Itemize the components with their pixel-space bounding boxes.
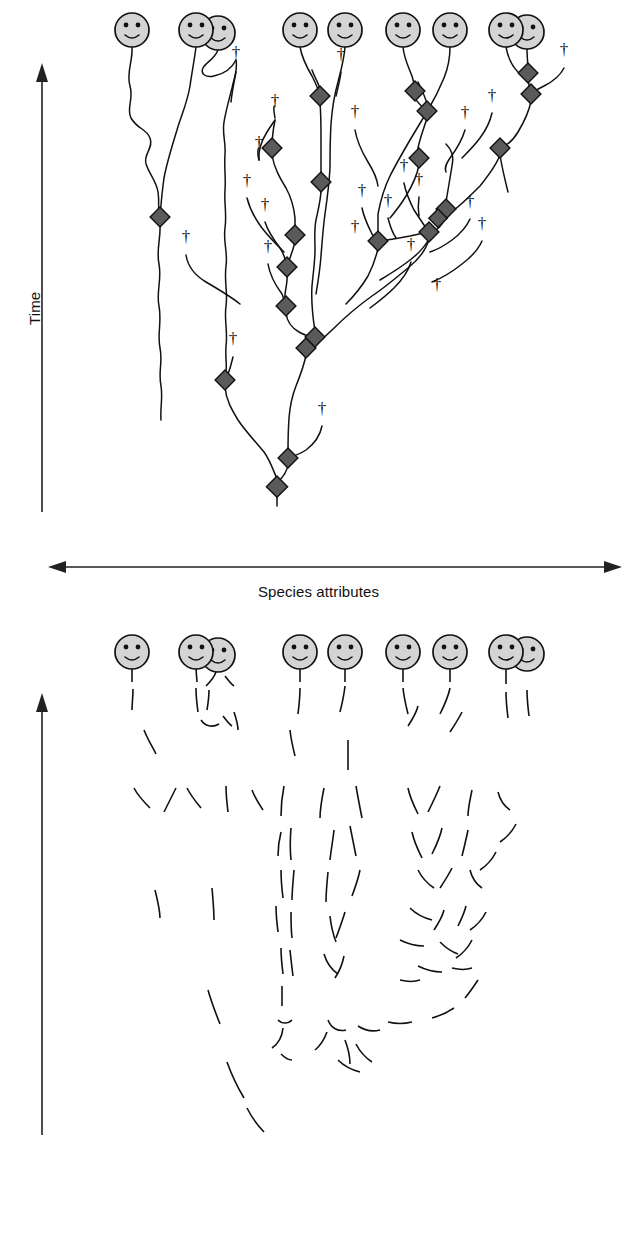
smiley-face-icon [386, 13, 420, 47]
extinction-dagger-icon: † [182, 227, 191, 246]
smiley-face-icon [433, 635, 467, 669]
smiley-face-icon [386, 635, 420, 669]
extinction-dagger-icon: † [264, 237, 273, 256]
extinction-dagger-icon: † [407, 235, 416, 254]
time-axis-bottom [36, 693, 48, 1135]
extinction-dagger-icon: † [400, 156, 409, 175]
branch-group [129, 47, 564, 506]
extinction-dagger-icon: † [271, 91, 280, 110]
diamond-node-icon [262, 138, 282, 158]
extinction-dagger-icon: † [466, 192, 475, 211]
diamond-node-icon [285, 225, 305, 245]
smiley-face-icon [283, 635, 317, 669]
diamond-node-icon [409, 148, 429, 168]
time-axis-top [36, 63, 48, 512]
smiley-face-icon [328, 13, 362, 47]
diamond-node-icon [521, 84, 541, 104]
diamond-node-icon [266, 476, 287, 497]
extinction-dagger-icon: † [488, 86, 497, 105]
extinction-dagger-icon: † [318, 399, 327, 418]
diamond-node-icon [310, 86, 330, 106]
diamond-node-icon [277, 257, 297, 277]
smiley-face-icon [115, 13, 149, 47]
extinction-dagger-icon: † [415, 170, 424, 189]
diamond-node-icon [278, 448, 298, 468]
diamond-node-icon [150, 207, 170, 227]
extinction-dagger-icon: † [358, 181, 367, 200]
extinction-dagger-icon: † [243, 171, 252, 190]
extant-species-group [115, 13, 544, 50]
speciation-node-group [150, 63, 541, 497]
smiley-face-icon [489, 635, 523, 669]
fragment-group [132, 686, 529, 1249]
extinction-dagger-icon: † [433, 275, 442, 294]
diamond-node-icon [368, 231, 388, 251]
panel-fossil-record-tree: Time Species attributes [0, 600, 637, 1249]
diamond-node-icon [405, 81, 425, 101]
smiley-face-icon [283, 13, 317, 47]
smiley-face-icon [179, 13, 213, 47]
diamond-node-icon [490, 138, 510, 158]
extinction-dagger-icon: † [461, 103, 470, 122]
extinction-dagger-icon: † [351, 217, 360, 236]
diamond-node-icon [518, 63, 538, 83]
extinction-dagger-icon: † [261, 195, 270, 214]
extinction-marker-group: † † † † † † † † † † † † † † † † † † † † … [182, 40, 569, 418]
extinction-dagger-icon: † [229, 329, 238, 348]
extinction-dagger-icon: † [255, 133, 264, 152]
extinction-dagger-icon: † [337, 45, 346, 64]
smiley-face-icon [179, 635, 213, 669]
extant-species-group-bottom [115, 635, 544, 686]
diamond-node-icon [276, 296, 296, 316]
smiley-face-icon [328, 635, 362, 669]
extinction-dagger-icon: † [351, 102, 360, 121]
smiley-face-icon [433, 13, 467, 47]
panel-complete-tree: † † † † † † † † † † † † † † † † † † † † … [0, 0, 637, 600]
extinction-dagger-icon: † [384, 191, 393, 210]
smiley-face-icon [489, 13, 523, 47]
extinction-dagger-icon: † [232, 43, 241, 62]
attributes-axis-label: Species attributes [0, 583, 637, 600]
smiley-face-icon [115, 635, 149, 669]
complete-tree-svg: † † † † † † † † † † † † † † † † † † † † … [0, 0, 637, 600]
fossil-record-svg [0, 620, 637, 1180]
extinction-dagger-icon: † [560, 40, 569, 59]
extinction-dagger-icon: † [478, 214, 487, 233]
time-axis-label: Time [26, 292, 43, 325]
diamond-node-icon [215, 370, 235, 390]
